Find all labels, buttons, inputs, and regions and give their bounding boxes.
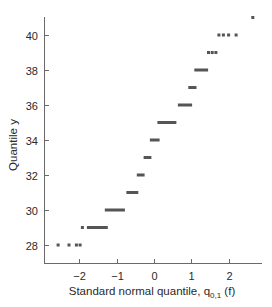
- y-tick-label: 30: [26, 205, 38, 217]
- data-point: [235, 34, 238, 37]
- data-point: [79, 244, 82, 247]
- x-axis: −2−1012: [44, 259, 262, 282]
- qq-plot: 28303234363840 −2−1012 Quantile y Standa…: [0, 0, 272, 307]
- data-run: [87, 226, 108, 229]
- y-tick-label: 36: [26, 100, 38, 112]
- data-point: [57, 244, 60, 247]
- x-tick-label: 0: [151, 270, 157, 282]
- y-tick-label: 34: [26, 135, 38, 147]
- data-run: [126, 191, 138, 194]
- y-ticks: 28303234363840: [26, 30, 49, 252]
- x-axis-label: Standard normal quantile, q0,1 (f): [69, 285, 236, 300]
- data-point: [68, 244, 71, 247]
- data-run: [137, 174, 145, 177]
- data-run: [157, 121, 176, 124]
- x-tick-label: 1: [188, 270, 194, 282]
- data-run: [144, 156, 152, 159]
- data-run: [188, 86, 196, 89]
- data-point: [81, 226, 84, 229]
- x-axis-label-subscript: 0,1: [210, 291, 222, 300]
- data-run: [105, 209, 125, 212]
- x-tick-label: −1: [111, 270, 124, 282]
- data-point: [211, 51, 214, 54]
- x-tick-label: 2: [226, 270, 232, 282]
- data-run: [150, 139, 160, 142]
- data-point: [214, 51, 217, 54]
- data-series: [57, 16, 255, 247]
- x-ticks: −2−1012: [73, 259, 232, 282]
- y-tick-label: 40: [26, 30, 38, 42]
- x-axis-label-suffix: (f): [221, 285, 235, 297]
- data-run: [194, 69, 208, 72]
- y-axis-label: Quantile y: [7, 119, 19, 171]
- data-point: [207, 51, 210, 54]
- data-point: [75, 244, 78, 247]
- y-tick-label: 32: [26, 170, 38, 182]
- data-point: [227, 34, 230, 37]
- data-point: [217, 34, 220, 37]
- x-tick-label: −2: [73, 270, 86, 282]
- data-point: [222, 34, 225, 37]
- y-axis: 28303234363840: [26, 17, 49, 264]
- y-tick-label: 28: [26, 240, 38, 252]
- x-axis-label-main: Standard normal quantile, q: [69, 285, 210, 297]
- data-run: [178, 104, 192, 107]
- y-tick-label: 38: [26, 65, 38, 77]
- data-point: [251, 16, 254, 19]
